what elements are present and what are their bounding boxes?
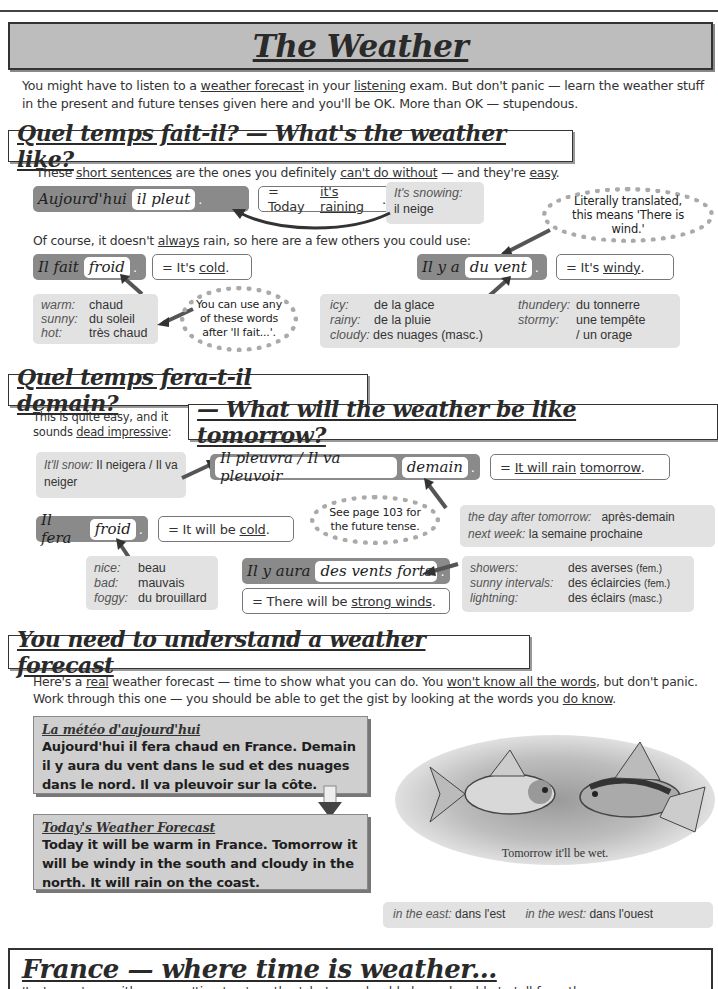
phrase-today-raining: Aujourd'hui il pleut . — [33, 186, 249, 212]
future-snow-note: It'll snow: Il neigera / Il va neiger — [36, 452, 186, 498]
phrase-fixed: Il y aura — [247, 562, 310, 580]
lead-text: . — [612, 691, 616, 706]
section-heading-text: — What will the weather be like tomorrow… — [197, 396, 709, 448]
vocab-column-right: thundery:du tonnerre stormy:une tempête … — [518, 298, 646, 343]
translation-text: = It's — [162, 260, 195, 275]
vocab-row: bad:mauvais — [94, 576, 210, 591]
vocab-en: lightning: — [470, 591, 568, 606]
translation-text: . — [640, 260, 644, 275]
vocab-en: nice: — [94, 561, 138, 576]
phrase-its-windy: Il y a du vent . — [417, 254, 547, 280]
phrase-dot: . — [535, 260, 539, 275]
vocab-fr: dans l'est — [455, 907, 505, 921]
lead-emphasis: do know — [563, 691, 613, 706]
lead-emphasis: short sentences — [76, 165, 172, 180]
vocab-row: in the west: dans l'ouest — [525, 907, 653, 923]
section-heading-forecast: You need to understand a weather forecas… — [8, 635, 530, 669]
vocab-row: warm:chaud — [41, 298, 150, 312]
translation-emphasis: It will rain — [515, 460, 576, 475]
summary-fragment: ' can either mean ' — [81, 984, 195, 989]
vocab-fr: beau — [138, 561, 166, 575]
translation-text: . — [225, 260, 229, 275]
snow-value: il neige — [394, 201, 476, 217]
intro-text: You might have to listen to a — [22, 78, 201, 93]
snow-label: It's snowing: — [394, 186, 462, 200]
vocab-row: sunny:du soleil — [41, 312, 150, 326]
intro-emphasis: weather forecast — [201, 78, 304, 93]
vocab-gender: (masc.) — [629, 593, 662, 604]
translation-text: = It's — [566, 260, 599, 275]
lead-text: are the ones you definitely — [172, 165, 340, 180]
intro-paragraph: You might have to listen to a weather fo… — [22, 77, 712, 113]
vocab-fr: du brouillard — [138, 591, 207, 605]
vocab-fr: du soleil — [89, 312, 135, 326]
vocab-en: icy: — [330, 298, 374, 313]
vocab-fr: des éclairs — [568, 591, 625, 605]
vocab-fr: dans l'ouest — [589, 907, 653, 921]
phrase-fixed: Il fait — [38, 258, 79, 276]
vocab-fr: mauvais — [138, 576, 185, 590]
time-expressions-note: the day after tomorrow: après-demain nex… — [460, 505, 715, 547]
translation-text: . — [266, 522, 270, 537]
vocab-row: / un orage — [518, 328, 646, 343]
vocab-en: thundery: — [518, 298, 576, 313]
forecast-title: Today's Weather Forecast — [42, 820, 359, 835]
summary-emphasis: Le temps — [25, 984, 81, 989]
vocab-fr: la semaine prochaine — [529, 527, 643, 541]
translation-its-windy: = It's windy. — [556, 254, 674, 280]
burst-text: You can use any of these words after 'Il… — [195, 298, 283, 340]
summary-emphasis: weather — [249, 984, 299, 989]
forecast-title: La météo d'aujourd'hui — [42, 722, 359, 737]
translation-text: . — [432, 594, 436, 609]
translation-will-be-cold: = It will be cold. — [158, 516, 294, 542]
side-emphasis: dead impressive — [76, 425, 168, 439]
translation-text: = — [500, 460, 511, 475]
vocab-row: nice:beau — [94, 561, 210, 576]
vocab-fr: des nuages (masc.) — [373, 328, 483, 342]
snow-note: It's snowing: il neige — [386, 182, 484, 224]
phrase-slot: Il pleuvra / Il va pleuvoir — [215, 457, 397, 478]
lead-emphasis: easy — [529, 165, 555, 180]
translation-emphasis: cold — [199, 260, 225, 275]
vocab-en: showers: — [470, 561, 568, 576]
arrow-icon — [118, 274, 148, 296]
snow-label: It'll snow: — [44, 458, 93, 472]
lead-text: . — [556, 165, 560, 180]
vocab-row: rainy:de la pluie — [330, 313, 483, 328]
side-text: : — [168, 425, 172, 439]
vocab-fr: de la glace — [374, 298, 434, 312]
vocab-en: hot: — [41, 326, 89, 340]
section2-side-text: This is quite easy, and it sounds dead i… — [33, 410, 183, 440]
vocab-gender: (fem.) — [644, 578, 670, 589]
vocab-en: in the west: — [525, 907, 586, 921]
vocab-list-il-y-aura: showers:des averses (fem.) sunny interva… — [462, 556, 694, 612]
callout-burst-future-tense: See page 103 for the future tense. — [310, 495, 440, 545]
vocab-fr: des éclaircies — [568, 576, 641, 590]
lead-emphasis: won't know all the words — [447, 674, 596, 689]
top-rule — [0, 10, 718, 12]
vocab-fr: du tonnerre — [576, 298, 640, 312]
lead-text: These — [36, 165, 76, 180]
vocab-list-il-y-a: icy:de la glace rainy:de la pluie cloudy… — [320, 294, 680, 348]
burst-text: See page 103 for the future tense. — [328, 506, 423, 534]
phrase-slot: il pleut — [132, 189, 195, 210]
lead-text: Here's a — [33, 674, 86, 689]
callout-burst-wind: Literally translated, this means 'There … — [542, 187, 714, 243]
lead-text: — and they're — [437, 165, 529, 180]
translation-emphasis: cold — [239, 522, 265, 537]
vocab-list-il-fera: nice:beau bad:mauvais foggy:du brouillar… — [86, 556, 218, 610]
phrase-dot: . — [139, 522, 143, 537]
intro-text: in your — [304, 78, 354, 93]
forecast-box-french: La météo d'aujourd'hui Aujourd'hui il fe… — [33, 716, 368, 794]
translation-text: = There will be — [252, 594, 347, 609]
vocab-row: lightning:des éclairs (masc.) — [470, 591, 686, 606]
intro-emphasis: listening — [354, 78, 406, 93]
phrase-dot: . — [198, 192, 202, 207]
summary-text: 'Le temps' can either mean 'time' or 'we… — [22, 984, 699, 989]
vocab-row: thundery:du tonnerre — [518, 298, 646, 313]
vocab-row: showers:des averses (fem.) — [470, 561, 686, 576]
vocab-row: stormy:une tempête — [518, 313, 646, 328]
burst-text: Literally translated, this means 'There … — [566, 194, 691, 236]
page-title: The Weather — [253, 28, 469, 64]
vocab-en: bad: — [94, 576, 138, 591]
